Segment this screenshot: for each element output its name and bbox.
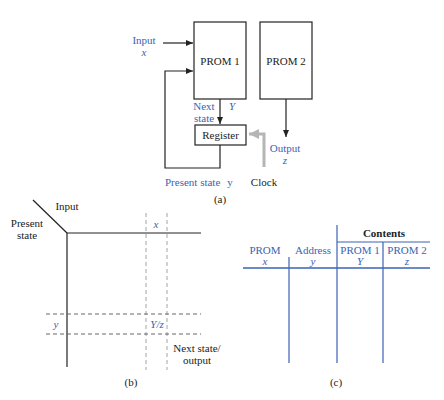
cell-next-state-output: Y/z [150, 318, 164, 330]
output-label: Output [270, 142, 301, 154]
prom-sequential-circuit-figure: Input x PROM 1 PROM 2 Next state Y Regis… [0, 0, 444, 400]
contents-header: Contents [363, 227, 406, 239]
present-state-axis-line1: Present [11, 217, 43, 229]
col-prom-var: x [262, 255, 268, 267]
register-label: Register [202, 129, 239, 141]
panel-a-block-diagram: Input x PROM 1 PROM 2 Next state Y Regis… [132, 22, 312, 206]
input-label: Input [132, 34, 155, 46]
prom1-label: PROM 1 [200, 55, 239, 67]
clock-arrow [249, 134, 264, 167]
output-var: z [282, 154, 288, 166]
col-address-var: y [310, 255, 316, 267]
prom2-label: PROM 2 [266, 55, 305, 67]
present-state-axis-line2: state [17, 229, 37, 241]
clock-label: Clock [251, 176, 278, 188]
input-var: x [141, 46, 147, 58]
caption-a: (a) [214, 193, 227, 206]
col-prom2-var: z [404, 255, 410, 267]
present-state-var: y [227, 176, 233, 188]
row-var-y: y [53, 318, 59, 330]
panel-c-prom-contents-table: Contents PROM x Address y PROM 1 Y PROM … [243, 225, 430, 389]
next-state-var: Y [229, 100, 237, 112]
col-prom1-var: Y [357, 255, 365, 267]
caption-c: (c) [330, 376, 343, 389]
panel-b-state-table-layout: Input Present state x y Y/z Next state/ … [11, 200, 222, 389]
caption-b: (b) [125, 376, 138, 389]
next-state-label-line1: Next [193, 100, 214, 112]
column-var-x: x [153, 218, 159, 230]
input-axis-label: Input [55, 200, 78, 212]
next-state-label-line2: state [194, 112, 214, 124]
present-state-label: Present state [165, 176, 220, 188]
next-state-output-label-line2: output [183, 354, 211, 366]
next-state-output-label-line1: Next state/ [173, 342, 221, 354]
